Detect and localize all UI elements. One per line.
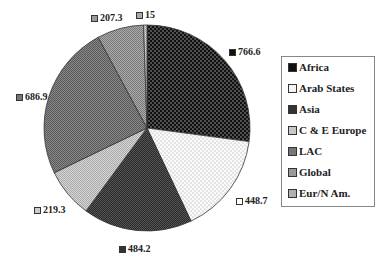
legend-label: LAC [299,145,322,157]
legend-c-e-europe-swatch-icon [288,126,297,135]
data-label-global-value: 207.3 [100,13,123,23]
global-swatch-icon [91,15,98,22]
lac-swatch-icon [16,94,23,101]
pie-slices [44,25,250,231]
legend-lac-swatch-icon [288,147,297,156]
data-label-c-e-europe: 219.3 [34,205,66,215]
legend-label: Global [299,166,331,178]
legend-item-arab-states: Arab States [288,82,354,94]
data-label-global: 207.3 [91,13,123,23]
data-label-arab-states-value: 448.7 [245,196,268,206]
legend-label: Asia [299,103,320,115]
data-label-arab-states: 448.7 [236,196,268,206]
data-label-eur-n-am: 15 [136,10,155,20]
c-e-europe-swatch-icon [34,207,41,214]
legend-item-africa: Africa [288,61,329,73]
legend-global-swatch-icon [288,168,297,177]
chart-legend: Africa Arab States Asia C & E Europe LAC… [281,56,375,207]
legend-africa-swatch-icon [288,63,297,72]
legend-label: C & E Europe [299,124,366,136]
arab-states-swatch-icon [236,198,243,205]
legend-asia-swatch-icon [288,105,297,114]
legend-item-eur-n-am: Eur/N Am. [288,187,350,199]
eur-n-am-swatch-icon [136,12,143,19]
data-label-africa-value: 766.6 [238,47,261,57]
data-label-eur-n-am-value: 15 [145,10,155,20]
legend-label: Arab States [299,82,354,94]
legend-arab-states-swatch-icon [288,84,297,93]
legend-label: Eur/N Am. [299,187,350,199]
data-label-lac-value: 686.9 [25,92,48,102]
pie-slice-africa [147,25,250,142]
legend-item-asia: Asia [288,103,320,115]
data-label-asia: 484.2 [119,244,151,254]
data-label-africa: 766.6 [229,47,261,57]
data-label-lac: 686.9 [16,92,48,102]
data-label-c-e-europe-value: 219.3 [43,205,66,215]
legend-eur-n-am-swatch-icon [288,189,297,198]
data-label-asia-value: 484.2 [128,244,151,254]
legend-item-lac: LAC [288,145,322,157]
legend-item-global: Global [288,166,331,178]
legend-label: Africa [299,61,329,73]
legend-item-c-e-europe: C & E Europe [288,124,366,136]
asia-swatch-icon [119,246,126,253]
africa-swatch-icon [229,49,236,56]
